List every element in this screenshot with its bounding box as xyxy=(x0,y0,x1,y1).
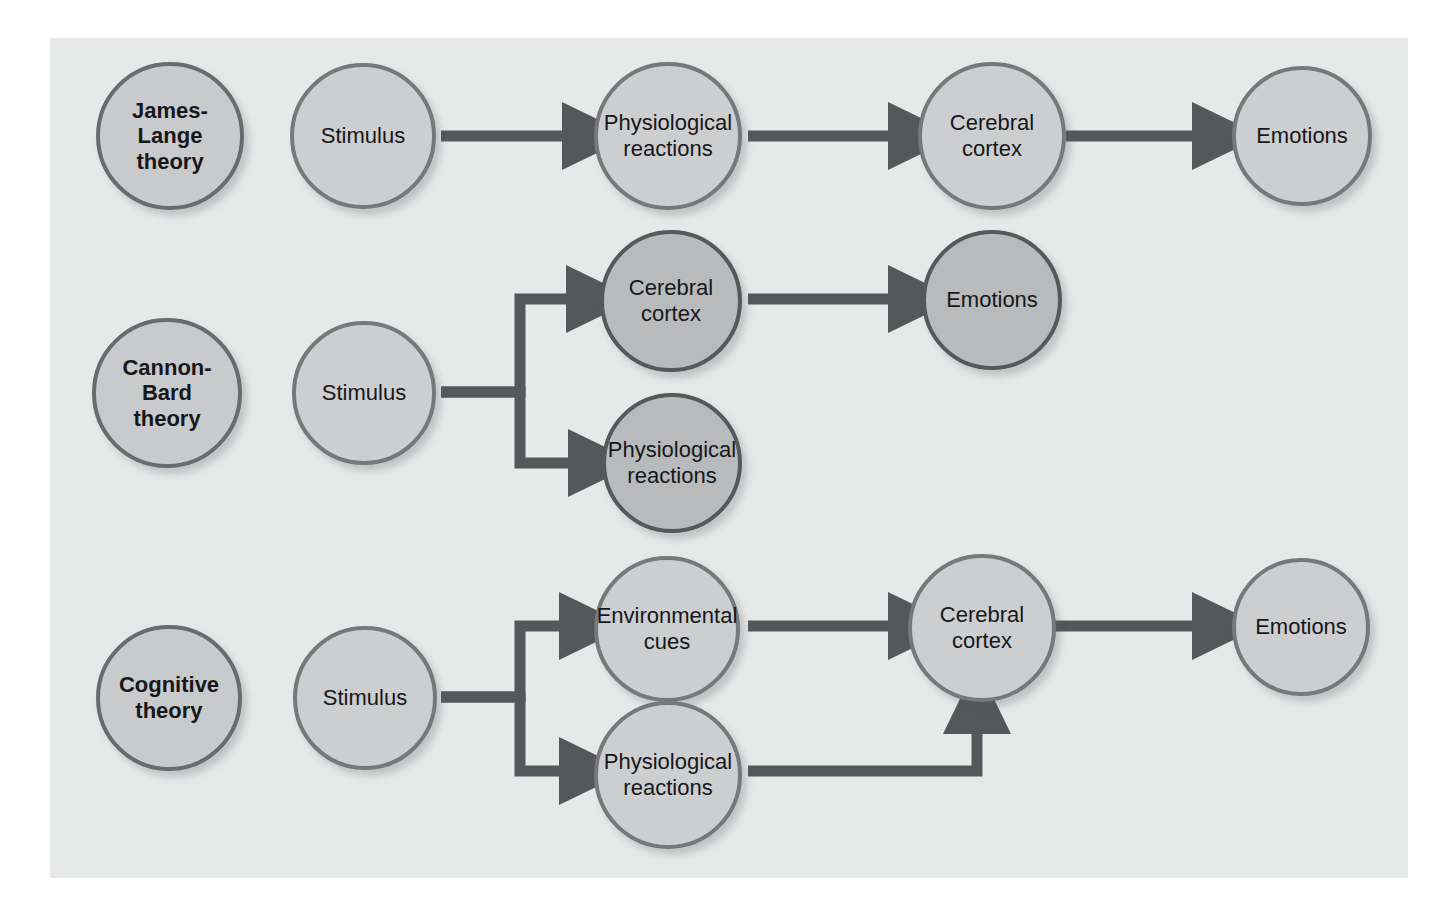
node-label-line2: cortex xyxy=(944,136,1040,162)
node-label: Cannon-Bard theory xyxy=(96,355,238,432)
node-label-line1: Environmental xyxy=(591,603,744,629)
node-label-line2: cues xyxy=(591,629,744,655)
node-cannon-bard-theory[interactable]: Cannon-Bard theory xyxy=(92,318,242,468)
node-label: James-Lange theory xyxy=(100,98,240,175)
node-label-line2: theory xyxy=(102,406,232,432)
node-r2-stimulus[interactable]: Stimulus xyxy=(292,321,436,465)
node-label-line1: Physiological xyxy=(598,749,738,775)
node-label: Environmental cues xyxy=(585,603,750,654)
node-label: Stimulus xyxy=(317,685,413,711)
edge-r3-physio-to-cortex xyxy=(748,710,977,771)
node-label-line2: reactions xyxy=(602,463,742,489)
node-label-line1: Cerebral xyxy=(944,110,1040,136)
diagram-canvas: James-Lange theory Stimulus Physiologica… xyxy=(0,0,1444,918)
node-label: Cerebral cortex xyxy=(928,602,1036,653)
node-label: Emotions xyxy=(1249,614,1353,640)
node-label: Stimulus xyxy=(316,380,412,406)
node-label: Emotions xyxy=(1250,123,1354,149)
node-label-line2: cortex xyxy=(934,628,1030,654)
edge-r2-stimulus-fork-to-physio xyxy=(441,392,592,463)
node-label: Cerebral cortex xyxy=(617,275,725,326)
node-r3-cerebral-cortex[interactable]: Cerebral cortex xyxy=(908,554,1056,702)
node-label: Stimulus xyxy=(315,123,411,149)
node-r3-physiological-reactions[interactable]: Physiological reactions xyxy=(594,701,742,849)
node-r3-stimulus[interactable]: Stimulus xyxy=(293,626,437,770)
node-label-line2: cortex xyxy=(623,301,719,327)
edge-r2-stimulus-fork-to-cortex xyxy=(441,299,590,392)
node-r2-physiological-reactions[interactable]: Physiological reactions xyxy=(602,393,742,533)
node-label-line1: Physiological xyxy=(598,110,738,136)
node-r2-cerebral-cortex[interactable]: Cerebral cortex xyxy=(600,230,742,372)
node-label-line1: Cannon-Bard xyxy=(102,355,232,406)
node-james-lange-theory[interactable]: James-Lange theory xyxy=(96,62,244,210)
node-label-line2: reactions xyxy=(598,136,738,162)
node-r3-environmental-cues[interactable]: Environmental cues xyxy=(594,556,740,702)
node-r1-stimulus[interactable]: Stimulus xyxy=(290,63,436,209)
node-r3-emotions[interactable]: Emotions xyxy=(1232,558,1370,696)
node-label: Physiological reactions xyxy=(596,437,748,488)
node-label: Physiological reactions xyxy=(592,110,744,161)
node-r2-emotions[interactable]: Emotions xyxy=(922,230,1062,370)
edge-r3-stimulus-fork-to-physio xyxy=(441,697,583,771)
node-label: Cognitive theory xyxy=(107,672,231,723)
node-label-line1: Cognitive xyxy=(113,672,225,698)
node-r1-cerebral-cortex[interactable]: Cerebral cortex xyxy=(918,62,1066,210)
node-r1-emotions[interactable]: Emotions xyxy=(1232,66,1372,206)
node-label-line1: Physiological xyxy=(602,437,742,463)
node-label: Cerebral cortex xyxy=(938,110,1046,161)
node-label-line2: reactions xyxy=(598,775,738,801)
node-r1-physiological-reactions[interactable]: Physiological reactions xyxy=(594,62,742,210)
node-label-line1: James-Lange xyxy=(106,98,234,149)
node-cognitive-theory[interactable]: Cognitive theory xyxy=(96,625,242,771)
node-label-line2: theory xyxy=(106,149,234,175)
node-label-line1: Cerebral xyxy=(623,275,719,301)
node-label-line2: theory xyxy=(113,698,225,724)
node-label: Emotions xyxy=(940,287,1044,313)
edge-r3-stimulus-fork-to-env xyxy=(441,626,583,697)
node-label-line1: Cerebral xyxy=(934,602,1030,628)
node-label: Physiological reactions xyxy=(592,749,744,800)
